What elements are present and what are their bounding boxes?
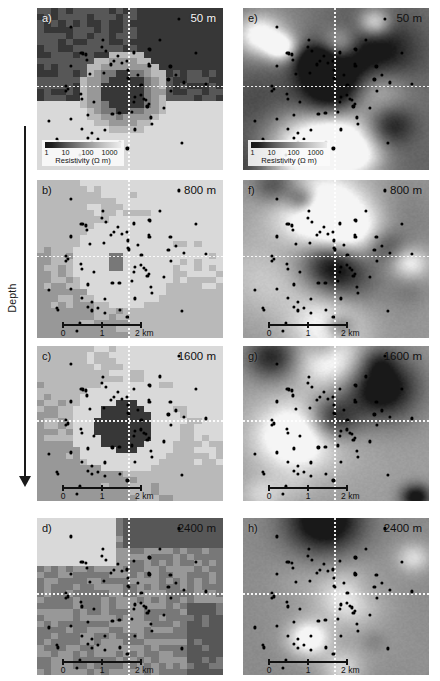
colorbar-title: Resistivity (Ω m) (45, 156, 121, 165)
resistivity-slice-panel-e: e)50 m1101001000Resistivity (Ω m) (243, 8, 429, 170)
panel-label-d: d) (42, 522, 52, 534)
scalebar-tick-label: 2 km (135, 491, 153, 501)
resistivity-slice-panel-d: d)2400 m012 km (37, 518, 223, 675)
panel-label-c: c) (42, 350, 51, 362)
profile-crosshair-vertical (334, 346, 336, 501)
panel-depth-label-a: 50 m (190, 12, 216, 24)
panel-depth-label-g: 1600 m (384, 350, 422, 362)
scalebar-tick-label: 1 (100, 665, 105, 675)
depth-axis: Depth (0, 120, 40, 500)
scalebar-tick-label: 2 km (135, 665, 153, 675)
scalebar-tick-label: 2 km (135, 328, 153, 338)
profile-crosshair-vertical (334, 518, 336, 675)
panel-label-e: e) (248, 12, 258, 24)
colorbar-tick-label: 100 (82, 148, 94, 157)
profile-crosshair-vertical (334, 8, 336, 170)
profile-crosshair-vertical (128, 8, 130, 170)
resistivity-slice-panel-c: c)1600 m012 km (37, 346, 223, 501)
colorbar-tick-label: 10 (62, 148, 70, 157)
panel-label-a: a) (42, 12, 52, 24)
scalebar-tick-label: 2 km (341, 328, 359, 338)
scalebar-tick-label: 1 (306, 491, 311, 501)
panel-label-g: g) (248, 350, 258, 362)
colorbar-title: Resistivity (Ω m) (251, 156, 327, 165)
depth-axis-line (24, 126, 26, 481)
scalebar-tick-label: 0 (267, 665, 272, 675)
profile-crosshair-vertical (334, 180, 336, 338)
resistivity-slice-panel-g: g)1600 m012 km (243, 346, 429, 501)
scalebar-tick-label: 1 (306, 328, 311, 338)
resistivity-slice-panel-a: a)50 m1101001000Resistivity (Ω m) (37, 8, 223, 170)
resistivity-colorbar: 1101001000Resistivity (Ω m) (42, 140, 124, 166)
panel-label-h: h) (248, 522, 258, 534)
panel-depth-label-h: 2400 m (384, 522, 422, 534)
scalebar-tick-label: 0 (267, 491, 272, 501)
profile-crosshair-vertical (128, 346, 130, 501)
resistivity-colorbar: 1101001000Resistivity (Ω m) (248, 140, 330, 166)
panel-depth-label-f: 800 m (390, 184, 422, 196)
profile-crosshair-vertical (128, 180, 130, 338)
resistivity-depth-slice-figure: Depth a)50 m1101001000Resistivity (Ω m)b… (0, 0, 440, 681)
depth-axis-label: Depth (6, 263, 18, 333)
profile-crosshair-vertical (128, 518, 130, 675)
scalebar-tick-label: 2 km (341, 665, 359, 675)
colorbar-ticks: 1101001000 (251, 148, 327, 157)
colorbar-tick-label: 1 (45, 148, 49, 157)
scalebar-tick-label: 0 (61, 328, 66, 338)
resistivity-slice-panel-b: b)800 m012 km (37, 180, 223, 338)
colorbar-tick-label: 100 (288, 148, 300, 157)
resistivity-slice-panel-f: f)800 m012 km (243, 180, 429, 338)
colorbar-tick-label: 1000 (102, 148, 118, 157)
scalebar-tick-label: 0 (61, 491, 66, 501)
scalebar-tick-label: 1 (306, 665, 311, 675)
colorbar-tick-label: 1 (251, 148, 255, 157)
scalebar-tick-label: 2 km (341, 491, 359, 501)
scalebar-tick-label: 1 (100, 491, 105, 501)
panel-depth-label-c: 1600 m (178, 350, 216, 362)
depth-arrow-icon (19, 476, 31, 487)
panel-depth-label-e: 50 m (396, 12, 422, 24)
scalebar-tick-label: 1 (100, 328, 105, 338)
colorbar-tick-label: 10 (268, 148, 276, 157)
colorbar-ticks: 1101001000 (45, 148, 121, 157)
panel-depth-label-b: 800 m (184, 184, 216, 196)
scalebar-tick-label: 0 (267, 328, 272, 338)
panel-label-f: f) (248, 184, 255, 196)
colorbar-tick-label: 1000 (308, 148, 324, 157)
scalebar-tick-label: 0 (61, 665, 66, 675)
panel-depth-label-d: 2400 m (178, 522, 216, 534)
panel-label-b: b) (42, 184, 52, 196)
resistivity-slice-panel-h: h)2400 m012 km (243, 518, 429, 675)
